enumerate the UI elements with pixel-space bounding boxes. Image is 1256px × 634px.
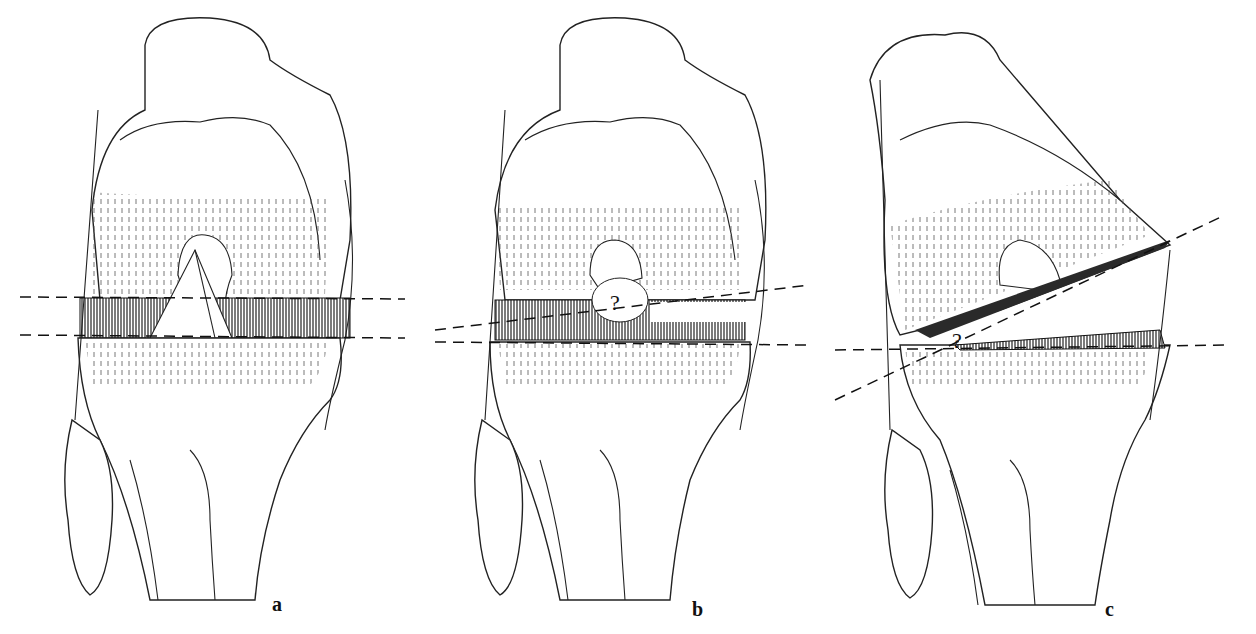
question-mark-b: ? bbox=[610, 290, 620, 315]
knee-illustration: ? ? bbox=[0, 0, 1256, 634]
panel-b: ? bbox=[435, 18, 810, 600]
panel-label-c: c bbox=[1105, 598, 1114, 621]
question-mark-c: ? bbox=[952, 328, 962, 353]
panel-a bbox=[20, 18, 405, 600]
panel-label-a: a bbox=[272, 593, 282, 616]
panel-c: ? bbox=[835, 33, 1230, 605]
panel-label-b: b bbox=[692, 598, 703, 621]
